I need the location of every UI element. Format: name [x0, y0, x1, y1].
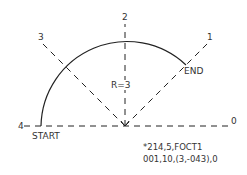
radius-label: R=3 [111, 80, 131, 90]
direction-label-1: 1 [207, 32, 213, 42]
direction-label-4: 4 [18, 121, 24, 131]
direction-label-2: 2 [122, 12, 128, 22]
radius-arrow-head [125, 121, 129, 126]
direction-label-0: 0 [231, 116, 237, 126]
code-line-2: 001,10,(3,-043),0 [143, 154, 218, 165]
start-label: START [32, 131, 60, 141]
direction-label-3: 3 [38, 32, 44, 42]
end-label: END [184, 66, 203, 76]
direction-line-1 [125, 43, 208, 126]
radius-arrow-head [121, 121, 125, 126]
code-line-1: *214,5,FOCT1 [143, 142, 202, 153]
